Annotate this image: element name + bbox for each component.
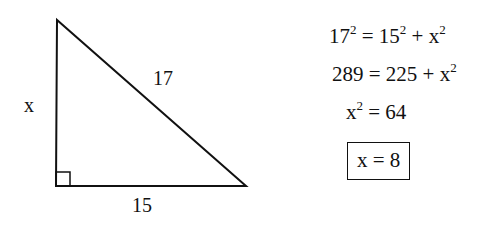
eq1-b-base: x [429, 24, 440, 48]
eq2-b-exp: 2 [450, 60, 457, 75]
eq1-plus: + [406, 24, 428, 48]
eq2-b-base: x [440, 62, 451, 86]
eq3-rhs: 64 [385, 100, 406, 124]
label-hypotenuse: 17 [153, 67, 173, 90]
eq2-lhs: 289 [332, 62, 364, 86]
answer-text: x = 8 [357, 148, 400, 172]
right-angle-marker-icon [56, 172, 70, 186]
eq3-equals: = [363, 100, 385, 124]
eq2-equals: = [364, 62, 386, 86]
eq1-a-base: 15 [379, 24, 400, 48]
equation-line-1: 172 = 152 + x2 [329, 24, 446, 49]
label-vertical-leg: x [24, 94, 34, 117]
triangle-outline [56, 20, 246, 186]
eq2-a: 225 [386, 62, 418, 86]
eq3-lhs-base: x [346, 100, 357, 124]
eq1-b-exp: 2 [439, 22, 446, 37]
eq1-lhs-base: 17 [329, 24, 350, 48]
answer-box: x = 8 [347, 142, 410, 180]
label-horizontal-leg: 15 [132, 194, 152, 217]
eq2-plus: + [417, 62, 439, 86]
eq1-equals: = [357, 24, 379, 48]
equation-line-3: x2 = 64 [346, 100, 406, 125]
equation-line-2: 289 = 225 + x2 [332, 62, 457, 87]
